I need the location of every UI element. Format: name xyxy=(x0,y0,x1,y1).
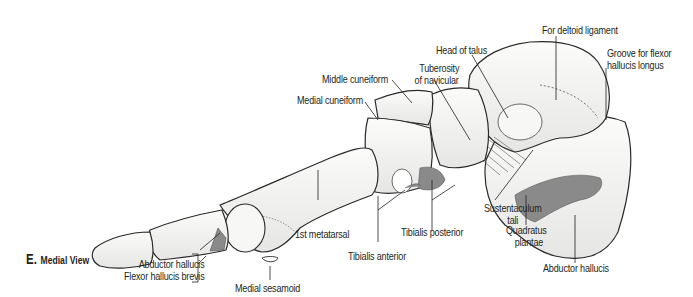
label-abductor-hallucis-heel: Abductor hallucis xyxy=(543,262,609,274)
label-abductor-flexor-hallucis: Abductor hallucis Flexor hallucis brevis xyxy=(124,258,205,282)
label-quadratus-plantae: Quadratus plantae xyxy=(506,224,547,248)
tibialis-anterior-attachment xyxy=(392,169,412,193)
label-groove-line2: hallucis longus xyxy=(607,59,671,71)
tibialis-posterior-attachment xyxy=(418,167,445,190)
label-tuberosity-of-navicular: Tuberosity of navicular xyxy=(414,62,459,86)
label-quadratus-line2: plantae xyxy=(506,236,547,248)
label-medial-cuneiform: Medial cuneiform xyxy=(297,94,363,106)
label-middle-cuneiform: Middle cuneiform xyxy=(322,73,388,85)
panel-letter: E. xyxy=(26,251,37,267)
label-groove-line1: Groove for flexor xyxy=(607,47,671,59)
label-flexor-hallucis-brevis: Flexor hallucis brevis xyxy=(124,270,205,282)
label-head-of-talus: Head of talus xyxy=(436,44,487,56)
navicular-bone xyxy=(429,88,488,168)
label-abductor-hallucis-toe: Abductor hallucis xyxy=(124,258,205,270)
label-quadratus-line1: Quadratus xyxy=(506,224,547,236)
label-first-metatarsal: 1st metatarsal xyxy=(295,228,349,240)
label-tibialis-posterior: Tibialis posterior xyxy=(401,226,463,238)
view-name: Medial View xyxy=(41,254,90,266)
label-sustentaculum-tali: Sustentaculum tali xyxy=(484,202,541,226)
label-for-deltoid-ligament: For deltoid ligament xyxy=(542,24,618,36)
foot-bones-illustration xyxy=(0,0,693,297)
medial-view-foot-figure: For deltoid ligament Groove for flexor h… xyxy=(0,0,693,297)
label-sustentaculum-line1: Sustentaculum xyxy=(484,202,541,214)
label-groove-flexor-hallucis-longus: Groove for flexor hallucis longus xyxy=(607,47,671,71)
label-medial-sesamoid: Medial sesamoid xyxy=(235,282,300,294)
figure-title: E. Medial View xyxy=(26,250,89,268)
label-tibialis-anterior: Tibialis anterior xyxy=(348,250,406,262)
label-tuberosity-line2: of navicular xyxy=(414,74,459,86)
head-of-talus xyxy=(498,104,542,140)
medial-sesamoid-bone xyxy=(262,257,278,262)
label-tuberosity-line1: Tuberosity xyxy=(414,62,459,74)
